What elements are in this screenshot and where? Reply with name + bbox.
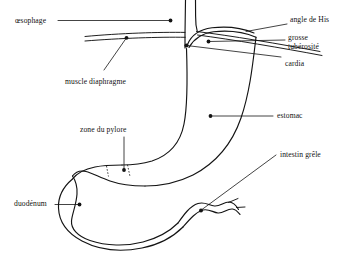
- stomach-lesser-curvature: [122, 49, 187, 166]
- leader-zone-du-pylore: [122, 137, 126, 172]
- label-duodenum: duodénum: [14, 199, 47, 208]
- leader-oesophage: [58, 19, 172, 23]
- pylorus-antrum-shape: [73, 165, 146, 186]
- pylorus-zone-markers: [107, 165, 131, 177]
- label-cardia: cardia: [285, 59, 304, 68]
- label-muscle-diaphragme: muscle diaphragme: [65, 77, 126, 86]
- duodenum-shape: [58, 176, 183, 250]
- label-oesophage: œsophage: [15, 16, 46, 25]
- stomach-greater-curvature: [145, 37, 256, 186]
- fundus-shape: [188, 27, 257, 47]
- leader-muscle-diaphragme: [104, 36, 128, 70]
- anatomical-diagram-stomach: œsophage angle de His grosse tubérosité …: [0, 0, 347, 263]
- label-zone-du-pylore: zone du pylore: [80, 125, 127, 134]
- oesophagus-shape: [185, 0, 197, 48]
- label-angle-de-his: angle de His: [290, 15, 329, 24]
- label-estomac: estomac: [277, 111, 303, 120]
- label-intestin-grele: intestin grêle: [280, 150, 321, 159]
- label-grosse-tuberosite-line2: tubérosité: [288, 42, 319, 51]
- leader-angle-de-his: [246, 24, 287, 32]
- label-grosse-tuberosite-line1: grosse: [288, 33, 308, 42]
